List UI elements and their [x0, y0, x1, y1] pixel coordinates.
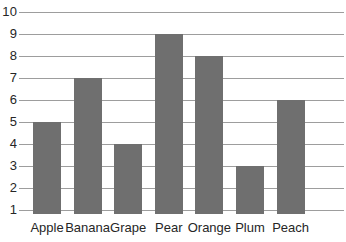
y-axis-tick-label: 10	[0, 5, 17, 18]
bar	[33, 122, 61, 214]
bar	[236, 166, 264, 214]
y-axis-tick-label: 9	[0, 27, 17, 40]
y-axis-tick-label: 1	[0, 203, 17, 216]
y-axis-tick-label: 6	[0, 93, 17, 106]
y-axis-tick-label: 7	[0, 71, 17, 84]
bar	[74, 78, 102, 214]
y-axis-tick-label: 2	[0, 181, 17, 194]
plot-area: 12345678910 AppleBananaGrapePearOrangePl…	[0, 0, 346, 242]
y-axis-tick-label: 4	[0, 137, 17, 150]
gridline	[26, 12, 344, 13]
y-axis-tick	[19, 100, 26, 101]
y-axis-tick	[19, 12, 26, 13]
y-axis-tick	[19, 122, 26, 123]
bar	[277, 100, 305, 214]
y-axis-tick	[19, 56, 26, 57]
y-axis-tick	[19, 166, 26, 167]
y-axis-tick-label: 5	[0, 115, 17, 128]
bar	[195, 56, 223, 214]
y-axis-tick-label: 8	[0, 49, 17, 62]
y-axis-tick	[19, 144, 26, 145]
y-axis-tick	[19, 78, 26, 79]
bar-chart: 12345678910 AppleBananaGrapePearOrangePl…	[0, 0, 346, 242]
y-axis-tick	[19, 34, 26, 35]
x-axis-tick-label: Peach	[261, 220, 321, 235]
bar	[155, 34, 183, 214]
gridline	[26, 34, 344, 35]
y-axis-tick-label: 3	[0, 159, 17, 172]
y-axis-tick	[19, 188, 26, 189]
bar	[114, 144, 142, 214]
y-axis-tick	[19, 210, 26, 211]
gridline	[26, 56, 344, 57]
